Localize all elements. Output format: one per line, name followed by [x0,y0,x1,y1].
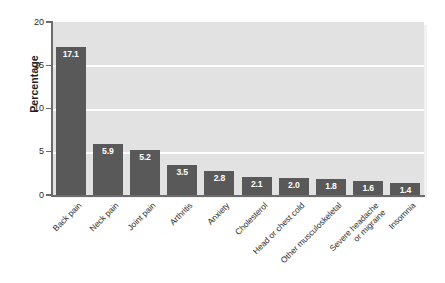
y-tick-mark [46,21,51,22]
y-tick-label: 15 [14,61,44,70]
bar-value-label: 1.4 [390,186,420,195]
y-tick-mark [46,65,51,66]
bar: 17.1 [56,47,86,195]
bar-value-label: 5.2 [130,153,160,162]
bar: 2.8 [204,171,234,195]
bar-value-label: 1.6 [353,184,383,193]
bar: 5.9 [93,144,123,195]
y-tick-mark [46,194,51,195]
y-axis-title: Percentage [28,14,40,154]
y-tick-label: 10 [14,104,44,113]
bar-value-label: 3.5 [167,168,197,177]
x-axis-category-label: Back pain [0,201,83,283]
bar: 1.8 [316,179,346,195]
x-axis-line [51,195,425,197]
gridline-10 [52,109,424,111]
bar: 5.2 [130,150,160,195]
y-tick-mark [46,151,51,152]
bar: 3.5 [167,165,197,195]
gridline-15 [52,65,424,67]
y-tick-label: 20 [14,18,44,27]
bar-value-label: 2.1 [242,180,272,189]
bar: 1.4 [390,183,420,195]
bar-value-label: 2.8 [204,174,234,183]
bar-value-label: 5.9 [93,147,123,156]
bar: 1.6 [353,181,383,195]
bar: 2.1 [242,177,272,195]
bar: 2.0 [279,178,309,195]
bar-value-label: 17.1 [56,50,86,59]
y-axis-line [51,21,53,196]
bar-value-label: 1.8 [316,182,346,191]
y-tick-mark [46,108,51,109]
y-tick-label: 5 [14,147,44,156]
y-tick-label: 0 [14,191,44,200]
bar-value-label: 2.0 [279,181,309,190]
bar-chart: Percentage 05101520 17.15.95.23.52.82.12… [0,0,445,283]
